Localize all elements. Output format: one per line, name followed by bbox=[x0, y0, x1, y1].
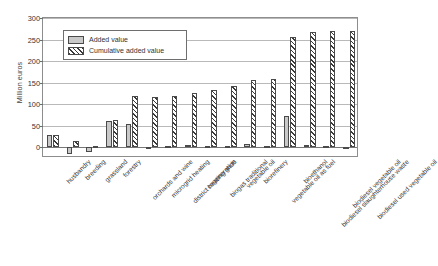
bar-added-value bbox=[244, 144, 249, 147]
y-axis-tick-mark bbox=[40, 104, 43, 105]
bar-cumulative-added-value bbox=[290, 37, 295, 147]
bar-added-value bbox=[86, 147, 91, 152]
x-axis-tick-label: biodiesel used vegetable oil bbox=[376, 158, 438, 220]
y-axis-tick-mark bbox=[40, 18, 43, 19]
bar-added-value bbox=[284, 116, 289, 147]
bar-group bbox=[201, 18, 221, 156]
bar-cumulative-added-value bbox=[310, 32, 315, 147]
bar-added-value bbox=[67, 147, 72, 154]
bar-added-value bbox=[185, 145, 190, 147]
y-axis-tick-mark bbox=[40, 126, 43, 127]
y-axis-tick-label: 300 bbox=[28, 14, 40, 23]
bar-group bbox=[280, 18, 300, 156]
x-axis-tick-labels: husbandrybreedinggrasslandforestryorchar… bbox=[42, 158, 358, 263]
bar-group bbox=[320, 18, 340, 156]
bar-cumulative-added-value bbox=[172, 96, 177, 148]
legend-label-added-value: Added value bbox=[89, 36, 128, 43]
bar-added-value bbox=[264, 146, 269, 148]
y-axis-tick-label: 150 bbox=[28, 78, 40, 87]
legend-label-cumulative-added-value: Cumulative added value bbox=[89, 47, 164, 54]
bar-cumulative-added-value bbox=[152, 97, 157, 147]
y-axis-tick-mark bbox=[40, 61, 43, 62]
y-axis-tick-label: 250 bbox=[28, 35, 40, 44]
legend-item-added-value: Added value bbox=[68, 34, 182, 45]
bar-added-value bbox=[146, 147, 151, 149]
bar-added-value bbox=[47, 135, 52, 147]
bar-cumulative-added-value bbox=[53, 135, 58, 147]
y-axis-title: Million euros bbox=[15, 38, 24, 128]
bar-added-value bbox=[304, 145, 309, 148]
bar-group bbox=[339, 18, 359, 156]
bar-added-value bbox=[343, 147, 348, 149]
bar-cumulative-added-value bbox=[192, 93, 197, 147]
bar-cumulative-added-value bbox=[211, 90, 216, 147]
bar-added-value bbox=[106, 121, 111, 147]
bar-group bbox=[241, 18, 261, 156]
bar-cumulative-added-value bbox=[93, 146, 98, 148]
bar-group bbox=[260, 18, 280, 156]
bar-cumulative-added-value bbox=[271, 79, 276, 147]
plot-area: Added value Cumulative added value 05010… bbox=[42, 17, 358, 157]
y-axis-tick-label: 100 bbox=[28, 100, 40, 109]
bar-group bbox=[43, 18, 63, 156]
bar-cumulative-added-value bbox=[251, 80, 256, 147]
bar-cumulative-added-value bbox=[132, 96, 137, 147]
bar-cumulative-added-value bbox=[73, 141, 78, 147]
x-axis-tick-label: vegetable oil as fuel bbox=[290, 158, 336, 204]
bar-group bbox=[221, 18, 241, 156]
bar-added-value bbox=[205, 146, 210, 148]
y-axis-tick-mark bbox=[40, 40, 43, 41]
legend-swatch-cumulative-added-value bbox=[68, 47, 84, 55]
y-axis-tick-label: 200 bbox=[28, 57, 40, 66]
bar-added-value bbox=[165, 146, 170, 148]
bar-added-value bbox=[225, 146, 230, 148]
y-axis-tick-mark bbox=[40, 147, 43, 148]
bar-added-value bbox=[126, 124, 131, 147]
y-axis-tick-mark bbox=[40, 83, 43, 84]
bar-group bbox=[300, 18, 320, 156]
bar-cumulative-added-value bbox=[330, 31, 335, 147]
chart-legend: Added value Cumulative added value bbox=[63, 30, 187, 60]
bar-cumulative-added-value bbox=[113, 120, 118, 147]
bar-cumulative-added-value bbox=[350, 31, 355, 147]
y-axis-tick-label: 50 bbox=[32, 121, 40, 130]
bar-added-value bbox=[323, 146, 328, 148]
legend-item-cumulative-added-value: Cumulative added value bbox=[68, 45, 182, 56]
legend-swatch-added-value bbox=[68, 36, 84, 44]
bar-cumulative-added-value bbox=[231, 86, 236, 147]
